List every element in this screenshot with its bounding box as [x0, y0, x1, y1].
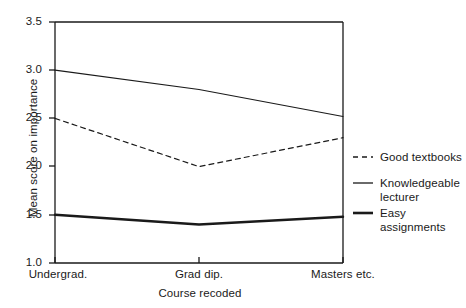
- series-line-easy-assignments: [55, 215, 343, 225]
- series-line-knowledgeable-lecturer: [55, 70, 343, 116]
- x-tick-label: Grad dip.: [153, 268, 245, 280]
- x-tick-label: Undergrad.: [10, 268, 106, 280]
- series-line-good-textbooks: [55, 118, 343, 166]
- y-axis-title: Mean score on importance: [27, 53, 39, 243]
- legend-label-knowledgeable-lecturer: Knowledgeable lecturer: [380, 177, 466, 204]
- legend-markers: [353, 157, 373, 213]
- x-axis-title: Course recoded: [130, 287, 270, 299]
- y-tick-marks: [49, 22, 55, 263]
- x-tick-marks: [55, 257, 343, 263]
- x-tick-label: Masters etc.: [295, 268, 391, 280]
- y-tick-label: 1.0: [12, 256, 42, 268]
- y-tick-label: 3.5: [12, 15, 42, 27]
- data-series-group: [55, 70, 343, 224]
- legend-label-easy-assignments: Easy assignments: [380, 207, 466, 234]
- axis-lines: [55, 22, 343, 263]
- legend-label-good-textbooks: Good textbooks: [380, 151, 466, 165]
